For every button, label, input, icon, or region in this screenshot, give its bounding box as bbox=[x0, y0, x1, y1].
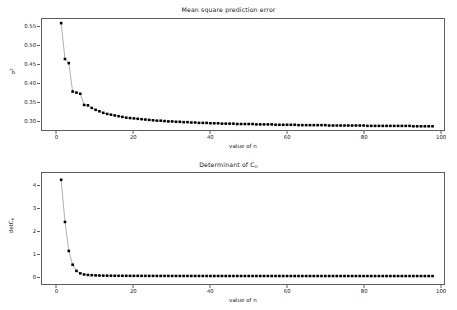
series-marker bbox=[68, 250, 71, 253]
series-marker bbox=[374, 275, 377, 278]
series-marker bbox=[71, 263, 74, 266]
series-marker bbox=[240, 123, 243, 126]
series-marker bbox=[186, 121, 189, 124]
series-marker bbox=[87, 104, 90, 107]
figure-canvas: Mean square prediction error σ2 0.300.35… bbox=[0, 0, 457, 310]
y-tick-label: 3 bbox=[33, 205, 36, 211]
series-line bbox=[61, 180, 432, 276]
series-marker bbox=[205, 122, 208, 125]
y-tick-label: 2 bbox=[33, 228, 36, 234]
series-marker bbox=[68, 62, 71, 65]
series-marker bbox=[366, 125, 369, 128]
series-marker bbox=[182, 121, 185, 124]
series-marker bbox=[420, 125, 423, 128]
y-tick-label: 0.35 bbox=[24, 99, 36, 105]
series-marker bbox=[125, 116, 128, 119]
series-marker bbox=[156, 119, 159, 122]
series-marker bbox=[355, 275, 358, 278]
series-marker bbox=[175, 275, 178, 278]
series-marker bbox=[293, 123, 296, 126]
series-marker bbox=[362, 275, 365, 278]
series-marker bbox=[90, 274, 93, 277]
series-marker bbox=[152, 119, 155, 122]
series-marker bbox=[313, 275, 316, 278]
series-marker bbox=[297, 275, 300, 278]
series-marker bbox=[267, 275, 270, 278]
series-marker bbox=[133, 275, 136, 278]
series-marker bbox=[397, 275, 400, 278]
series-marker bbox=[259, 123, 262, 126]
y-axis-ticks-top: 0.300.350.400.450.500.55 bbox=[0, 18, 36, 131]
y-tick-label: 0.50 bbox=[24, 42, 36, 48]
series-marker bbox=[255, 275, 258, 278]
series-marker bbox=[404, 275, 407, 278]
y-tick-mark bbox=[37, 45, 40, 46]
series-marker bbox=[370, 275, 373, 278]
chart-panel-determinant-of-cn: Determinant of Cn detCn 01234 0204060801… bbox=[0, 155, 457, 310]
series-marker bbox=[290, 275, 293, 278]
series-marker bbox=[179, 121, 182, 124]
series-marker bbox=[244, 275, 247, 278]
series-marker bbox=[309, 124, 312, 127]
series-marker bbox=[60, 22, 63, 25]
x-axis-label-top: value of n bbox=[41, 143, 445, 149]
series-marker bbox=[71, 90, 74, 93]
series-marker bbox=[286, 123, 289, 126]
series-marker bbox=[339, 275, 342, 278]
series-marker bbox=[278, 275, 281, 278]
series-marker bbox=[136, 118, 139, 121]
series-marker bbox=[117, 115, 120, 118]
y-tick-label: 1 bbox=[33, 251, 36, 257]
series-marker bbox=[293, 275, 296, 278]
series-marker bbox=[274, 123, 277, 126]
series-marker bbox=[336, 124, 339, 127]
series-marker bbox=[267, 123, 270, 126]
series-marker bbox=[316, 124, 319, 127]
series-marker bbox=[389, 275, 392, 278]
series-marker bbox=[144, 118, 147, 121]
series-marker bbox=[370, 125, 373, 128]
series-marker bbox=[355, 124, 358, 127]
series-marker bbox=[255, 123, 258, 126]
series-marker bbox=[332, 124, 335, 127]
plot-series-bottom bbox=[42, 173, 444, 284]
series-marker bbox=[297, 124, 300, 127]
x-tick-label: 60 bbox=[284, 134, 291, 140]
series-marker bbox=[320, 124, 323, 127]
series-marker bbox=[102, 112, 105, 115]
series-marker bbox=[385, 275, 388, 278]
series-marker bbox=[343, 275, 346, 278]
series-marker bbox=[301, 275, 304, 278]
series-marker bbox=[221, 275, 224, 278]
y-tick-mark bbox=[37, 254, 40, 255]
chart-title-top: Mean square prediction error bbox=[0, 6, 457, 14]
series-marker bbox=[190, 275, 193, 278]
plot-area-bottom bbox=[41, 172, 445, 285]
x-tick-label: 60 bbox=[284, 288, 291, 294]
series-marker bbox=[305, 275, 308, 278]
series-marker bbox=[83, 104, 86, 107]
series-marker bbox=[129, 275, 132, 278]
series-marker bbox=[401, 125, 404, 128]
series-marker bbox=[167, 275, 170, 278]
series-marker bbox=[140, 118, 143, 121]
series-marker bbox=[358, 275, 361, 278]
series-marker bbox=[148, 119, 151, 122]
y-tick-label: 4 bbox=[33, 182, 36, 188]
series-marker bbox=[431, 125, 434, 128]
series-marker bbox=[251, 123, 254, 126]
series-marker bbox=[171, 275, 174, 278]
series-marker bbox=[121, 275, 124, 278]
series-marker bbox=[316, 275, 319, 278]
series-marker bbox=[381, 125, 384, 128]
plot-area-top bbox=[41, 18, 445, 131]
series-marker bbox=[247, 275, 250, 278]
series-marker bbox=[98, 274, 101, 277]
y-tick-mark bbox=[37, 83, 40, 84]
chart-title-bottom-main: Determinant of C bbox=[199, 161, 255, 168]
series-marker bbox=[156, 275, 159, 278]
series-marker bbox=[198, 122, 201, 125]
series-marker bbox=[224, 275, 227, 278]
y-tick-mark bbox=[37, 121, 40, 122]
x-tick-label: 20 bbox=[130, 288, 137, 294]
